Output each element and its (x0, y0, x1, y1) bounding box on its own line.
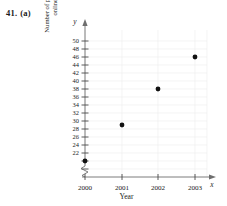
data-points (83, 55, 198, 164)
y-axis-break-icon (81, 166, 88, 177)
y-tick-label: 48 (73, 45, 79, 52)
y-axis-arrow (82, 19, 87, 26)
x-tick-labels: 2000 2001 2002 2003 (78, 184, 203, 192)
x-tick-label: 2000 (78, 184, 93, 192)
data-point[interactable] (193, 55, 198, 60)
y-axis-variable-label: y (72, 17, 77, 26)
y-tick-label: 28 (73, 125, 79, 132)
y-tick-label: 38 (73, 85, 79, 92)
scatter-plot-figure: 50 48 46 44 42 40 38 36 34 32 30 28 26 2… (0, 0, 227, 206)
y-tick-label: 40 (73, 77, 79, 84)
y-tick-label: 50 (73, 37, 79, 44)
x-tick-label: 2003 (188, 184, 203, 192)
figure-page: 41.(a) (0, 0, 227, 206)
x-tick-label: 2001 (115, 184, 130, 192)
y-tick-label: 30 (73, 117, 79, 124)
x-axis-title-text: Year (120, 192, 134, 201)
x-axis-arrow (209, 174, 216, 179)
y-tick-label: 32 (73, 109, 79, 116)
x-axis-title: Year (0, 192, 227, 201)
grid-lines (85, 30, 207, 177)
data-point[interactable] (83, 159, 88, 164)
y-tick-label: 34 (73, 101, 80, 108)
y-tick-label: 24 (73, 141, 80, 148)
y-tick-label: 26 (73, 133, 79, 140)
x-axis (82, 174, 216, 179)
y-tick-label: 42 (73, 69, 79, 76)
data-point[interactable] (120, 123, 125, 128)
y-tick-label: 44 (73, 61, 80, 68)
y-tick-label: 22 (73, 149, 79, 156)
x-axis-variable-label: x (209, 180, 214, 189)
y-tick-label: 36 (73, 93, 79, 100)
y-tick-labels: 50 48 46 44 42 40 38 36 34 32 30 28 26 2… (73, 37, 80, 156)
x-tick-label: 2002 (151, 184, 166, 192)
y-tick-label: 46 (73, 53, 79, 60)
plot-canvas: 50 48 46 44 42 40 38 36 34 32 30 28 26 2… (0, 0, 227, 206)
data-point[interactable] (156, 87, 161, 92)
